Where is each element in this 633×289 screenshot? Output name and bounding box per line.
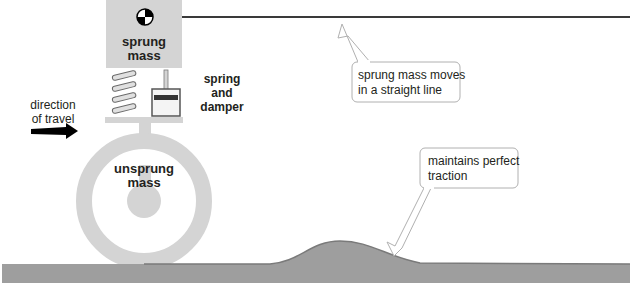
unsprung-mass-label-line2: mass: [127, 175, 160, 190]
suspension-diagram: sprung mass spring and damper direction …: [0, 0, 633, 289]
center-of-mass-icon: [137, 9, 153, 25]
sprung-mass-label-line2: mass: [127, 48, 160, 63]
callout-traction-text-1: maintains perfect: [428, 154, 520, 168]
sprung-mass-label-line1: sprung: [122, 34, 166, 49]
direction-label-line1: direction: [30, 98, 75, 112]
callout-traction-text-2: traction: [428, 169, 467, 183]
direction-label-line2: of travel: [32, 112, 75, 126]
unsprung-mass-label-line1: unsprung: [114, 161, 174, 176]
coil-spring-icon: [112, 70, 136, 114]
callout-straight-line-text-2: in a straight line: [358, 83, 442, 97]
lower-spring-plate: [105, 117, 183, 123]
unsprung-mass-wheel: [84, 141, 204, 261]
spring-damper-label-line2: and: [211, 86, 232, 100]
callout-straight-line-text-1: sprung mass moves: [358, 68, 465, 82]
damper-icon: [152, 70, 180, 116]
spring-damper-label-line1: spring: [204, 72, 241, 86]
spring-damper-label-line3: damper: [200, 100, 244, 114]
